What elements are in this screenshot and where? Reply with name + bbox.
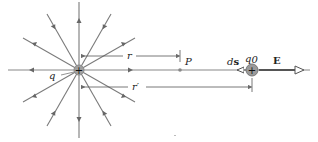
point-P (178, 68, 182, 72)
label-r: r (127, 50, 133, 61)
label-r-prime: r′ (132, 81, 140, 92)
field-diagram: + q r r′ P ds + q0 E (0, 0, 318, 142)
label-E: E (273, 55, 281, 66)
label-P: P (184, 56, 192, 67)
svg-text:+: + (75, 65, 83, 76)
label-q: q (49, 70, 55, 81)
label-q0: q0 (245, 53, 258, 65)
label-ds: ds (227, 56, 239, 67)
svg-text:+: + (248, 65, 256, 76)
